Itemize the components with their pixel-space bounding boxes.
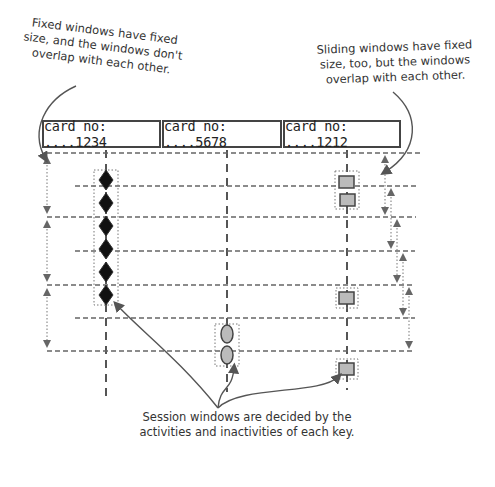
session-callout-arrow-1212 bbox=[218, 377, 338, 408]
session-callout-arrow-1234 bbox=[117, 305, 218, 408]
events-5678 bbox=[221, 325, 233, 364]
diamond-icon bbox=[99, 285, 113, 305]
diamond-icon bbox=[99, 239, 113, 259]
square-icon bbox=[339, 363, 354, 375]
diamond-icon bbox=[99, 193, 113, 213]
diamond-icon bbox=[99, 170, 113, 190]
oval-icon bbox=[221, 325, 233, 343]
windowing-diagram bbox=[0, 0, 495, 487]
oval-icon bbox=[221, 346, 233, 364]
square-icon bbox=[339, 292, 354, 304]
square-icon bbox=[339, 176, 354, 188]
diamond-icon bbox=[99, 262, 113, 282]
events-1212 bbox=[339, 176, 355, 375]
square-icon bbox=[340, 194, 355, 206]
sliding-callout-arrow bbox=[385, 92, 412, 172]
fixed-callout-arrow bbox=[39, 86, 76, 158]
diamond-icon bbox=[99, 216, 113, 236]
